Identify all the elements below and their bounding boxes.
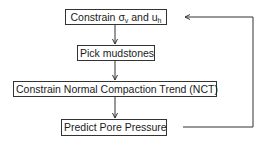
node-label: Constrain [71,11,119,23]
node-constrain-sigma-u: Constrain σv and uh [65,9,167,25]
node-label: Pick mudstones [80,47,154,59]
node-label: Constrain Normal Compaction Trend (NCT) [16,83,218,95]
node-predict-pore-pressure: Predict Pore Pressure [61,119,167,136]
node-label: Predict Pore Pressure [64,121,167,133]
feedback-arrow-n4-n1 [183,17,253,127]
node-label-and: and u [128,11,157,23]
u-subscript: h [158,17,162,24]
node-constrain-nct: Constrain Normal Compaction Trend (NCT) [13,81,217,97]
node-pick-mudstones: Pick mudstones [77,45,155,61]
